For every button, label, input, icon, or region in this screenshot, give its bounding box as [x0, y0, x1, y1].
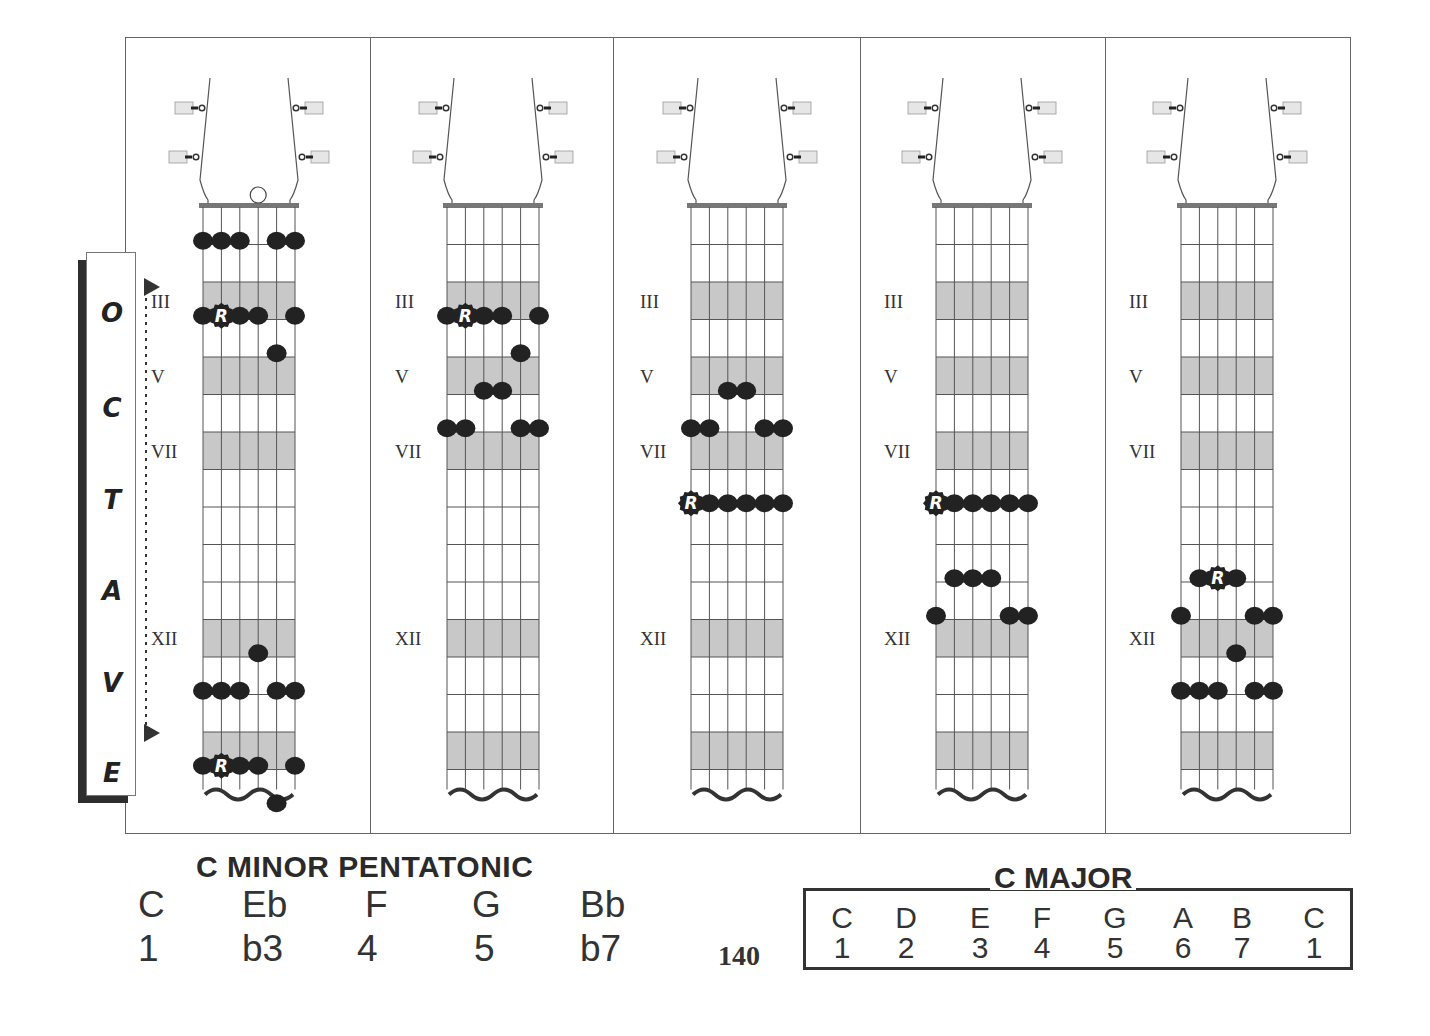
svg-text:R: R	[1211, 568, 1224, 588]
fret-position-label: V	[395, 366, 409, 387]
scale-note-dot	[1208, 682, 1228, 700]
fret-position-label: XII	[640, 628, 666, 649]
scale-note-dot	[944, 569, 964, 587]
fret-position-label: XII	[884, 628, 910, 649]
fret-position-label: VII	[1129, 441, 1155, 462]
scale-note-dot	[1018, 494, 1038, 512]
fret-position-label: XII	[1129, 628, 1155, 649]
scale-note-dot	[230, 232, 250, 250]
fretboard-pattern-4: IIIVVIIXIIR	[866, 60, 1086, 840]
octave-letter: A	[87, 576, 137, 606]
scale-note-dot	[267, 232, 287, 250]
scale-note-dot	[193, 682, 213, 700]
scale-degree: b3	[242, 928, 283, 970]
svg-text:R: R	[215, 756, 228, 776]
tuning-peg-icon	[413, 151, 443, 163]
fret-position-label: III	[884, 291, 903, 312]
tuning-peg-icon	[657, 151, 687, 163]
fret-position-label: XII	[151, 628, 177, 649]
headstock	[933, 78, 1031, 207]
tuning-peg-icon	[1271, 102, 1301, 114]
scale-note-dot	[926, 607, 946, 625]
tuning-peg-icon	[419, 102, 449, 114]
scale-note-dot	[755, 419, 775, 437]
shaded-fret-marker	[1181, 357, 1273, 395]
scale-note-dot	[681, 419, 701, 437]
scale-degree: 4	[357, 928, 378, 970]
shaded-fret-marker	[1181, 732, 1273, 770]
tuning-peg-icon	[537, 102, 567, 114]
scale-note-dot	[511, 419, 531, 437]
fretboard-pattern-2: IIIVVIIXIIR	[377, 60, 597, 840]
scale-note-dot	[773, 419, 793, 437]
scale-note-dot	[718, 382, 738, 400]
open-string-marker	[250, 187, 266, 203]
scale-degree: 5	[1095, 933, 1135, 963]
scale-degree: 1	[1294, 933, 1334, 963]
scale-note-dot	[981, 569, 1001, 587]
shaded-fret-marker	[936, 732, 1028, 770]
scale-note-dot	[1263, 682, 1283, 700]
octave-label-box: O C T A V E	[86, 252, 136, 796]
scale-note-dot	[437, 419, 457, 437]
scale-note-dot	[963, 494, 983, 512]
fret-position-label: III	[395, 291, 414, 312]
scale-note: E	[960, 903, 1000, 933]
nut	[199, 203, 299, 208]
fret-position-label: III	[1129, 291, 1148, 312]
fret-position-label: V	[640, 366, 654, 387]
fretboard-pattern-3: IIIVVIIXIIR	[621, 60, 841, 840]
scale-note-dot	[736, 494, 756, 512]
scale-degree: 1	[822, 933, 862, 963]
octave-letter: O	[87, 298, 137, 328]
scale-note-dot	[267, 344, 287, 362]
tuning-peg-icon	[1147, 151, 1177, 163]
nut	[932, 203, 1032, 208]
tuning-peg-icon	[1032, 151, 1062, 163]
tuning-peg-icon	[175, 102, 205, 114]
scale-degree: 6	[1163, 933, 1203, 963]
fret-position-label: VII	[151, 441, 177, 462]
svg-text:R: R	[684, 493, 697, 513]
scale-degree: 3	[960, 933, 1000, 963]
fret-position-label: V	[1129, 366, 1143, 387]
tuning-peg-icon	[1026, 102, 1056, 114]
panel-divider	[370, 37, 371, 834]
panel-divider	[1105, 37, 1106, 834]
shaded-fret-marker	[203, 432, 295, 470]
scale-note-dot	[755, 494, 775, 512]
scale-note: G	[1095, 903, 1135, 933]
scale-note-dot	[529, 307, 549, 325]
scale-note-dot	[492, 307, 512, 325]
scale-note-dot	[248, 757, 268, 775]
scale-note-dot	[267, 682, 287, 700]
neck-break-icon	[938, 790, 1026, 800]
fret-position-label: VII	[640, 441, 666, 462]
scale-degree: 5	[474, 928, 495, 970]
scale-degree: b7	[580, 928, 621, 970]
scale-note: F	[365, 884, 388, 926]
scale-note-dot	[1018, 607, 1038, 625]
scale-note-dot	[529, 419, 549, 437]
scale-note-dot	[285, 757, 305, 775]
scale-note: C	[1294, 903, 1334, 933]
scale-note: Eb	[242, 884, 287, 926]
scale-note-dot	[211, 682, 231, 700]
fretboard-pattern-5: IIIVVIIXIIR	[1111, 60, 1331, 840]
tuning-peg-icon	[781, 102, 811, 114]
scale-note-dot	[1000, 607, 1020, 625]
octave-letter: T	[87, 485, 137, 515]
scale-note-dot	[474, 307, 494, 325]
scale-note-dot	[455, 419, 475, 437]
tuning-peg-icon	[787, 151, 817, 163]
scale-note-dot	[267, 794, 287, 812]
shaded-fret-marker	[936, 432, 1028, 470]
fretboard-pattern-1: IIIVVIIXIIRR	[133, 60, 353, 840]
panel-divider	[860, 37, 861, 834]
headstock	[1178, 78, 1276, 207]
scale-note-dot	[699, 419, 719, 437]
scale-degree: 1	[138, 928, 159, 970]
svg-text:R: R	[215, 306, 228, 326]
shaded-fret-marker	[447, 732, 539, 770]
scale-note-dot	[963, 569, 983, 587]
